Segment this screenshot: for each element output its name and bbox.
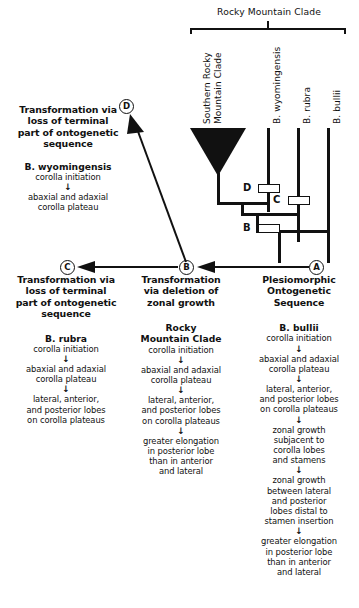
panel-c-heading-line-4: sequence bbox=[2, 308, 130, 319]
panel-d-step-2-line-2: corolla plateau bbox=[4, 202, 132, 212]
panel-a-step-3: lateral, anterior, and posterior lobes o… bbox=[240, 384, 358, 415]
node-box-d bbox=[258, 184, 280, 193]
node-label-c: C bbox=[273, 194, 280, 205]
panel-d-heading-line-4: sequence bbox=[4, 138, 132, 149]
panel-a: Plesiomorphic Ontogenetic Sequence B. bu… bbox=[240, 274, 358, 577]
branch-b-rubra bbox=[297, 128, 300, 242]
panel-b-step-2-line-2: corolla plateau bbox=[120, 375, 242, 385]
panel-a-arrow-5: ↓ bbox=[240, 526, 358, 536]
panel-b-taxon-line-2: Mountain Clade bbox=[120, 333, 242, 344]
panel-a-step-2-line-1: abaxial and adaxial bbox=[240, 354, 358, 364]
panel-a-arrow-1: ↓ bbox=[240, 344, 358, 354]
panel-b-step-4-line-4: and lateral bbox=[120, 466, 242, 476]
panel-a-step-6-line-2: in posterior lobe bbox=[240, 547, 358, 557]
node-box-c bbox=[288, 196, 310, 205]
taxon-label-southern-rocky-mountain-clade: Southern Rocky Mountain Clade bbox=[202, 52, 223, 124]
panel-c-arrow-1: ↓ bbox=[2, 354, 130, 364]
panel-b-step-3: lateral, anterior, and posterior lobes o… bbox=[120, 395, 242, 426]
panel-a-arrow-3: ↓ bbox=[240, 415, 358, 425]
panel-c-step-2-line-2: corolla plateau bbox=[2, 374, 130, 384]
panel-c-step-3: lateral, anterior, and posterior lobes o… bbox=[2, 394, 130, 425]
bracket-left-tick bbox=[190, 28, 192, 34]
panel-a-step-4-line-3: corolla lobes bbox=[240, 445, 358, 455]
panel-c: Transformation via loss of terminal part… bbox=[2, 274, 130, 425]
panel-b-step-3-line-2: and posterior lobes bbox=[120, 405, 242, 415]
panel-b: Transformation via deletion of zonal gro… bbox=[120, 274, 242, 477]
panel-a-step-4-line-2: subjacent to bbox=[240, 435, 358, 445]
branch-southern-clade-stem bbox=[217, 173, 220, 203]
panel-c-heading-line-3: part of ontogenetic bbox=[2, 297, 130, 308]
panel-a-step-2: abaxial and adaxial corolla plateau bbox=[240, 354, 358, 374]
panel-a-heading-line-1: Plesiomorphic bbox=[240, 274, 358, 285]
panel-b-step-3-line-3: on corolla plateaus bbox=[120, 416, 242, 426]
node-c-horizontal bbox=[241, 213, 300, 216]
panel-d-heading: Transformation via loss of terminal part… bbox=[4, 104, 132, 150]
clade-triangle-southern-rocky-mountain bbox=[190, 128, 246, 176]
panel-b-heading-line-3: zonal growth bbox=[120, 297, 242, 308]
arrow-a-to-b bbox=[195, 260, 310, 274]
panel-c-step-2-line-1: abaxial and adaxial bbox=[2, 364, 130, 374]
panel-c-step-2: abaxial and adaxial corolla plateau bbox=[2, 364, 130, 384]
panel-a-heading-line-3: Sequence bbox=[240, 297, 358, 308]
panel-a-step-3-line-2: and posterior lobes bbox=[240, 394, 358, 404]
panel-b-step-4-line-1: greater elongation bbox=[120, 436, 242, 446]
panel-a-step-1: corolla initiation bbox=[240, 333, 358, 343]
branch-b-bullii bbox=[327, 128, 330, 263]
panel-c-heading-line-2: loss of terminal bbox=[2, 285, 130, 296]
panel-a-step-5-line-1: zonal growth bbox=[240, 475, 358, 485]
panel-a-step-5: zonal growth between lateral and posteri… bbox=[240, 475, 358, 526]
panel-b-arrow-3: ↓ bbox=[120, 426, 242, 436]
arrow-b-to-d bbox=[122, 112, 192, 264]
panel-a-step-4: zonal growth subjacent to corolla lobes … bbox=[240, 425, 358, 466]
bracket-stem-tick bbox=[267, 21, 269, 29]
taxon-line-2: Mountain Clade bbox=[213, 52, 223, 124]
panel-a-step-6: greater elongation in posterior lobe tha… bbox=[240, 536, 358, 577]
panel-b-heading-line-1: Transformation bbox=[120, 274, 242, 285]
panel-b-taxon: Rocky Mountain Clade bbox=[120, 322, 242, 344]
circled-marker-c: C bbox=[60, 260, 75, 275]
panel-a-step-5-line-5: stamen insertion bbox=[240, 516, 358, 526]
taxon-label-b-rubra: B. rubra bbox=[302, 87, 312, 124]
panel-b-step-2-line-1: abaxial and adaxial bbox=[120, 365, 242, 375]
panel-b-step-3-line-1: lateral, anterior, bbox=[120, 395, 242, 405]
panel-d-step-2: abaxial and adaxial corolla plateau bbox=[4, 192, 132, 212]
panel-d: Transformation via loss of terminal part… bbox=[4, 104, 132, 212]
node-label-b: B bbox=[243, 222, 251, 233]
panel-a-step-5-line-4: lobes distal to bbox=[240, 506, 358, 516]
panel-c-heading-line-1: Transformation via bbox=[2, 274, 130, 285]
panel-a-arrow-2: ↓ bbox=[240, 374, 358, 384]
root-stem bbox=[278, 230, 281, 263]
panel-a-step-4-line-1: zonal growth bbox=[240, 425, 358, 435]
taxon-line-1: Southern Rocky bbox=[202, 52, 212, 124]
panel-a-heading: Plesiomorphic Ontogenetic Sequence bbox=[240, 274, 358, 308]
panel-c-step-3-line-2: and posterior lobes bbox=[2, 405, 130, 415]
panel-b-taxon-line-1: Rocky bbox=[120, 322, 242, 333]
panel-a-step-4-line-4: and stamens bbox=[240, 455, 358, 465]
panel-d-step-2-line-1: abaxial and adaxial bbox=[4, 192, 132, 202]
panel-d-taxon: B. wyomingensis bbox=[4, 161, 132, 172]
panel-b-step-1: corolla initiation bbox=[120, 345, 242, 355]
node-box-b bbox=[258, 224, 280, 233]
panel-c-step-3-line-3: on corolla plateaus bbox=[2, 415, 130, 425]
panel-a-step-3-line-3: on corolla plateaus bbox=[240, 404, 358, 414]
top-bracket-label: Rocky Mountain Clade bbox=[186, 6, 352, 17]
panel-d-step-1: corolla initiation bbox=[4, 172, 132, 182]
panel-d-heading-line-3: part of ontogenetic bbox=[4, 127, 132, 138]
panel-b-heading: Transformation via deletion of zonal gro… bbox=[120, 274, 242, 308]
panel-a-step-5-line-2: between lateral bbox=[240, 486, 358, 496]
bracket-right-tick bbox=[344, 28, 346, 34]
panel-a-heading-line-2: Ontogenetic bbox=[240, 285, 358, 296]
node-label-d: D bbox=[243, 182, 251, 193]
circled-marker-a: A bbox=[309, 260, 324, 275]
panel-a-taxon: B. bullii bbox=[240, 322, 358, 333]
panel-b-step-4-line-2: in posterior lobe bbox=[120, 446, 242, 456]
panel-a-arrow-4: ↓ bbox=[240, 465, 358, 475]
taxon-label-b-wyomingensis: B. wyomingensis bbox=[272, 47, 282, 124]
panel-b-arrow-2: ↓ bbox=[120, 385, 242, 395]
panel-b-step-4: greater elongation in posterior lobe tha… bbox=[120, 436, 242, 477]
taxon-label-b-bullii: B. bullii bbox=[332, 90, 342, 124]
panel-c-heading: Transformation via loss of terminal part… bbox=[2, 274, 130, 320]
panel-a-step-6-line-1: greater elongation bbox=[240, 536, 358, 546]
panel-a-step-3-line-1: lateral, anterior, bbox=[240, 384, 358, 394]
panel-b-step-2: abaxial and adaxial corolla plateau bbox=[120, 365, 242, 385]
